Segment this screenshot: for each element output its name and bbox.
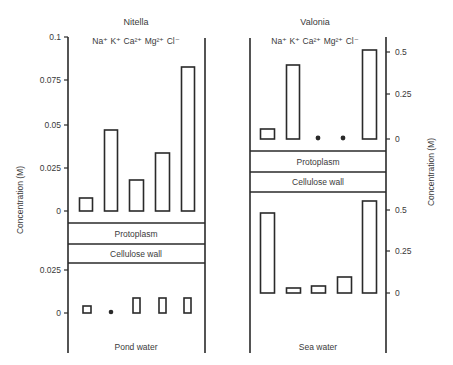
svg-text:0: 0 — [56, 308, 61, 318]
svg-text:0.5: 0.5 — [395, 205, 407, 215]
valonia-ion-labels: Na⁺ K⁺ Ca²⁺ Mg²⁺ Cl⁻ — [271, 36, 358, 46]
valonia-title: Valonia — [300, 17, 329, 27]
bar-k — [287, 288, 301, 293]
svg-text:0.5: 0.5 — [395, 47, 407, 57]
nitella-cellulose-wall-label: Cellulose wall — [110, 249, 162, 259]
bar-na — [83, 306, 91, 313]
sea-water-label: Sea water — [299, 342, 337, 352]
bar-k — [105, 130, 118, 211]
valonia-cellulose-wall-label: Cellulose wall — [292, 177, 344, 187]
pond-water-label: Pond water — [115, 342, 158, 352]
nitella-lower-ticks: 0.025 0 — [40, 265, 68, 318]
bar-cl — [363, 201, 377, 293]
svg-text:0.1: 0.1 — [49, 32, 61, 42]
valonia-y-axis-label: Concentration (M) — [426, 138, 436, 206]
svg-text:0: 0 — [56, 206, 61, 216]
valonia-panel: Valonia Na⁺ K⁺ Ca²⁺ Mg²⁺ Cl⁻ Protoplasm … — [250, 17, 436, 353]
nitella-pond-water-bars — [83, 298, 191, 314]
svg-text:0.05: 0.05 — [44, 120, 61, 130]
bar-ca-dot — [316, 136, 321, 141]
figure: Nitella Na⁺ K⁺ Ca²⁺ Mg²⁺ Cl⁻ Protoplasm … — [0, 0, 453, 365]
nitella-protoplasm-label: Protoplasm — [115, 229, 158, 239]
bar-na — [261, 213, 275, 293]
svg-text:0.075: 0.075 — [40, 75, 62, 85]
bar-cl — [363, 50, 377, 139]
bar-ca — [133, 298, 140, 313]
nitella-title: Nitella — [123, 17, 148, 27]
valonia-protoplasm-bars — [261, 50, 377, 140]
valonia-upper-ticks: 0.5 0.25 0 — [386, 47, 412, 144]
bar-mg — [156, 153, 170, 211]
nitella-upper-ticks: 0.1 0.075 0.05 0.025 0 — [40, 32, 68, 216]
bar-cl — [184, 298, 191, 313]
bar-k-dot — [109, 310, 114, 315]
svg-text:0.25: 0.25 — [395, 246, 412, 256]
svg-text:0.25: 0.25 — [395, 89, 412, 99]
bar-cl — [182, 67, 195, 211]
bar-mg — [338, 277, 352, 293]
nitella-y-axis-label: Concentration (M) — [15, 166, 25, 234]
bar-ca — [312, 286, 326, 293]
valonia-protoplasm-label: Protoplasm — [297, 157, 340, 167]
svg-text:0: 0 — [395, 288, 400, 298]
nitella-panel: Nitella Na⁺ K⁺ Ca²⁺ Mg²⁺ Cl⁻ Protoplasm … — [15, 17, 205, 353]
bar-na — [80, 198, 93, 211]
bar-ca — [130, 180, 144, 211]
svg-text:0: 0 — [395, 134, 400, 144]
valonia-sea-water-bars — [261, 201, 377, 293]
nitella-protoplasm-bars — [80, 67, 195, 211]
bar-k — [287, 65, 300, 139]
svg-text:0.025: 0.025 — [40, 163, 62, 173]
svg-text:0.025: 0.025 — [40, 265, 62, 275]
bar-mg — [159, 298, 166, 313]
nitella-ion-labels: Na⁺ K⁺ Ca²⁺ Mg²⁺ Cl⁻ — [92, 36, 179, 46]
bar-mg-dot — [341, 136, 346, 141]
bar-na — [261, 129, 275, 139]
valonia-lower-ticks: 0.5 0.25 0 — [386, 205, 412, 298]
